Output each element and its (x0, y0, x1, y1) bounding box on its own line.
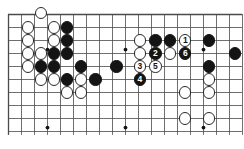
stone-black (61, 47, 73, 59)
numbered-stone-1: 1 (179, 34, 191, 46)
stone-black (48, 60, 60, 72)
stone-white (203, 112, 215, 124)
stone-white (203, 86, 215, 98)
stone-move-number: 1 (180, 36, 190, 45)
stone-black (110, 60, 122, 72)
stone-black (75, 60, 87, 72)
stone-black (61, 21, 73, 33)
stone-black (203, 34, 215, 46)
stone-white (22, 21, 34, 33)
stone-move-number: 2 (150, 49, 160, 58)
stone-black (229, 47, 241, 59)
stone-black (164, 34, 176, 46)
stone-black (149, 34, 161, 46)
stone-white (179, 86, 191, 98)
stone-black (35, 60, 47, 72)
numbered-stone-4: 4 (134, 73, 146, 85)
stone-white (48, 34, 60, 46)
stone-white (35, 47, 47, 59)
stone-white (22, 34, 34, 46)
stone-black (61, 34, 73, 46)
stone-black (48, 47, 60, 59)
stone-black (89, 73, 101, 85)
stone-white (134, 47, 146, 59)
stone-move-number: 4 (135, 75, 145, 84)
go-board-diagram: 126354 (0, 0, 244, 149)
stone-white (48, 21, 60, 33)
stone-white (35, 7, 47, 19)
stone-white (48, 73, 60, 85)
go-stone-layer: 126354 (0, 0, 244, 149)
stone-white (203, 73, 215, 85)
numbered-stone-6: 6 (179, 47, 191, 59)
stone-black (203, 60, 215, 72)
stone-move-number: 5 (150, 62, 160, 71)
numbered-stone-5: 5 (149, 60, 161, 72)
numbered-stone-3: 3 (134, 60, 146, 72)
stone-black (61, 73, 73, 85)
stone-white (75, 86, 87, 98)
stone-white (22, 47, 34, 59)
stone-white (61, 86, 73, 98)
stone-white (134, 34, 146, 46)
numbered-stone-2: 2 (149, 47, 161, 59)
stone-move-number: 6 (180, 49, 190, 58)
stone-white (22, 60, 34, 72)
stone-white (164, 47, 176, 59)
stone-white (35, 73, 47, 85)
stone-white (179, 112, 191, 124)
stone-move-number: 3 (135, 62, 145, 71)
stone-white (75, 73, 87, 85)
